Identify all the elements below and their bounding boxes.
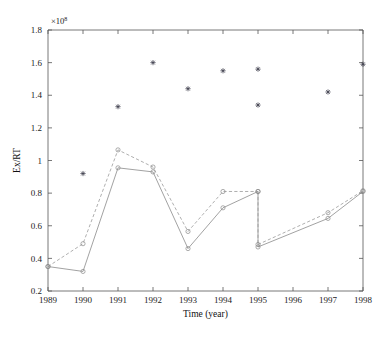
x-tick-label: 1995 [249,295,268,305]
y-tick-label: 1.6 [31,58,43,68]
x-tick-label: 1992 [144,295,162,305]
x-tick-label: 1998 [354,295,373,305]
y-tick-label: 0.2 [31,286,42,296]
data-markers-group [46,60,366,274]
star-marker [80,171,85,176]
ticks-group [48,30,363,291]
star-marker [255,102,260,107]
chart-figure: 1989199019911992199319941995199619971998… [0,0,388,337]
plot-frame [48,30,363,291]
x-tick-label: 1994 [214,295,233,305]
data-point-marker [81,242,85,246]
x-tick-label: 1989 [39,295,58,305]
plot-canvas: 1989199019911992199319941995199619971998… [0,0,388,337]
star-marker [220,68,225,73]
series-path-dashed [48,150,258,267]
star-marker [115,104,120,109]
x-tick-label: 1993 [179,295,198,305]
tick-labels-group: 1989199019911992199319941995199619971998… [31,25,373,305]
y-tick-label: 0.6 [31,221,43,231]
y-tick-label: 1 [38,156,43,166]
y-axis-exponent-label: ×108 [51,16,67,27]
y-tick-label: 1.2 [31,123,42,133]
axes-group [48,30,363,291]
y-axis-title: Ex/RT [12,148,22,173]
x-tick-label: 1991 [109,295,127,305]
star-marker [150,60,155,65]
star-marker [185,86,190,91]
series-path-dashed [258,191,363,245]
x-axis-title: Time (year) [183,309,228,320]
y-tick-label: 1.4 [31,90,43,100]
star-marker [325,89,330,94]
series-path-solid [258,191,363,246]
y-tick-label: 1.8 [31,25,43,35]
y-tick-label: 0.4 [31,254,43,264]
x-tick-label: 1996 [284,295,303,305]
y-tick-label: 0.8 [31,188,43,198]
series-path-solid [48,168,258,272]
x-tick-label: 1990 [74,295,93,305]
star-marker [360,62,365,67]
data-series-group [48,150,363,272]
x-tick-label: 1997 [319,295,338,305]
star-marker [255,67,260,72]
